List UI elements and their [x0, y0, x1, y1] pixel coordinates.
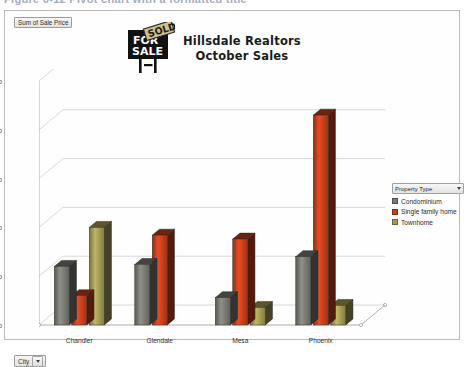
- city-filter-dropdown-icon[interactable]: [32, 356, 43, 367]
- legend-field-button[interactable]: Property Type: [392, 183, 464, 194]
- figure-caption-text: Figure 6-12 Pivot chart with a formatted…: [4, 0, 247, 5]
- legend-title: Property Type: [395, 186, 432, 192]
- legend-swatch: [392, 209, 398, 215]
- x-axis-tick-label: Mesa: [232, 337, 248, 344]
- value-field-button[interactable]: Sum of Sale Price: [14, 17, 72, 28]
- figure-caption-strip: Figure 6-12 Pivot chart with a formatted…: [0, 0, 466, 8]
- y-axis-tick-labels: 05000001000000150000020000002500000: [0, 69, 2, 331]
- for-sale-sign-icon: FOR SALE SOLD: [123, 22, 175, 76]
- y-axis-tick-label: 1500000: [0, 175, 2, 182]
- y-axis-tick-label: 2500000: [0, 78, 2, 85]
- for-sale-sign-logo: FOR SALE SOLD: [123, 22, 175, 76]
- y-axis-tick-label: 500000: [0, 273, 2, 280]
- plot-area: [39, 69, 391, 331]
- y-axis-tick-label: 0: [0, 322, 2, 329]
- x-axis-tick-label: Phoenix: [309, 337, 333, 344]
- legend-item[interactable]: Single family home: [392, 208, 464, 215]
- legend-item-label: Condominium: [401, 198, 442, 205]
- legend[interactable]: Property Type CondominiumSingle family h…: [392, 183, 464, 226]
- svg-text:SALE: SALE: [132, 45, 163, 58]
- legend-item-label: Single family home: [401, 208, 457, 215]
- chevron-down-icon[interactable]: [457, 187, 461, 190]
- legend-item[interactable]: Condominium: [392, 198, 464, 205]
- y-axis-tick-label: 2000000: [0, 126, 2, 133]
- x-axis-tick-label: Glendale: [147, 337, 173, 344]
- chart-title-line-1: Hillsdale Realtors: [183, 34, 301, 49]
- pivot-chart-frame[interactable]: Sum of Sale Price FOR SALE SOLD: [4, 10, 460, 340]
- legend-item-label: Townhome: [401, 219, 433, 226]
- chart-title-line-2: October Sales: [183, 49, 301, 64]
- city-field-button[interactable]: City: [14, 355, 46, 367]
- bar-chart-3d: [39, 69, 391, 331]
- x-axis-tick-labels: ChandlerGlendaleMesaPhoenix: [39, 337, 391, 349]
- legend-item[interactable]: Townhome: [392, 219, 464, 226]
- value-field-label: Sum of Sale Price: [18, 18, 68, 27]
- y-axis-tick-label: 1000000: [0, 224, 2, 231]
- x-axis-tick-label: Chandler: [66, 337, 93, 344]
- legend-swatch: [392, 198, 398, 204]
- city-field-label: City: [18, 357, 29, 366]
- legend-items: CondominiumSingle family homeTownhome: [392, 198, 464, 226]
- legend-swatch: [392, 219, 398, 225]
- chart-title: Hillsdale Realtors October Sales: [183, 34, 301, 64]
